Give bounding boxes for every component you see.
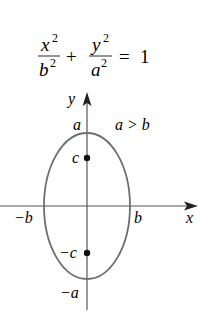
term2-denominator: a: [91, 59, 101, 80]
focus-top-point: [84, 155, 90, 161]
term2-numerator: y: [90, 34, 101, 55]
ellipse-diagram: x 2 b 2 + y 2 a 2 = 1 y a a > b c −b b x…: [0, 0, 215, 324]
term1-numerator: x: [40, 34, 50, 55]
labels: y a a > b c −b b x −c −a: [14, 90, 193, 301]
condition-label: a > b: [115, 116, 150, 133]
label-neg-a: −a: [60, 284, 79, 301]
term1-denominator: b: [39, 59, 49, 80]
rhs-value: 1: [140, 46, 150, 67]
label-a: a: [73, 116, 81, 133]
term2-denominator-exp: 2: [101, 56, 107, 70]
label-neg-b: −b: [14, 209, 33, 226]
equals-sign: =: [119, 46, 130, 67]
focus-bottom-point: [84, 250, 90, 256]
label-b: b: [134, 209, 142, 226]
equation: x 2 b 2 + y 2 a 2 = 1: [38, 31, 150, 80]
y-axis-label: y: [66, 90, 76, 108]
term1-denominator-exp: 2: [50, 56, 56, 70]
label-c: c: [72, 149, 79, 166]
axes: [0, 92, 198, 310]
x-axis-label: x: [185, 209, 193, 226]
term2-numerator-exp: 2: [103, 31, 109, 45]
plus-sign: +: [66, 46, 77, 67]
label-neg-c: −c: [59, 244, 77, 261]
term1-numerator-exp: 2: [52, 31, 58, 45]
